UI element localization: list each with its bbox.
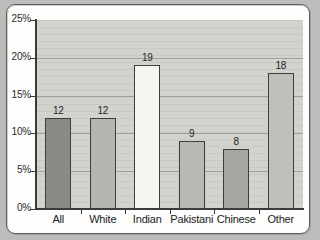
scan-texture-line: [36, 97, 303, 98]
y-axis-tick-label: 10%: [0, 127, 31, 137]
bar-value-label: 19: [127, 52, 167, 63]
chart-page: 25%20%15%10%5%0% 12All12White19Indian9Pa…: [0, 0, 320, 240]
y-axis-tick-label: 25%: [0, 14, 31, 24]
scan-texture-line: [36, 34, 303, 35]
bar-pakistani: [179, 141, 205, 209]
scan-texture-line: [36, 48, 303, 49]
bar-other: [268, 73, 294, 209]
scan-texture-line: [36, 125, 303, 126]
scan-texture-line: [36, 167, 303, 168]
y-axis-tick: [30, 96, 36, 97]
scan-texture-line: [36, 90, 303, 91]
y-axis-tick: [30, 133, 36, 134]
scan-texture-line: [36, 181, 303, 182]
y-axis-tick-label: 20%: [0, 52, 31, 62]
y-axis-tick: [30, 171, 36, 172]
bar-indian: [134, 65, 160, 209]
bar-chinese: [223, 149, 249, 209]
y-axis-tick: [30, 58, 36, 59]
scan-texture-line: [36, 41, 303, 42]
y-axis-tick-label: 15%: [0, 90, 31, 100]
scan-texture-line: [36, 188, 303, 189]
y-axis-labels: 25%20%15%10%5%0%: [0, 0, 31, 240]
x-axis-category-label: Other: [251, 213, 311, 226]
scan-texture-line: [36, 27, 303, 28]
scan-texture-line: [36, 76, 303, 77]
bar-value-label: 8: [216, 136, 256, 147]
scan-texture-line: [36, 139, 303, 140]
bar-all: [45, 118, 71, 209]
y-axis-tick-label: 5%: [0, 165, 31, 175]
bar-value-label: 12: [38, 105, 78, 116]
y-axis-tick-label: 0%: [0, 203, 31, 213]
y-axis-line: [35, 19, 37, 210]
scan-texture-line: [36, 55, 303, 56]
bar-white: [90, 118, 116, 209]
scan-texture-line: [36, 146, 303, 147]
scan-texture-line: [36, 118, 303, 119]
gridline: [36, 58, 303, 59]
bar-value-label: 18: [261, 60, 301, 71]
gridline: [36, 171, 303, 172]
scan-texture-line: [36, 20, 303, 21]
y-axis-tick: [30, 20, 36, 21]
scan-texture-line: [36, 174, 303, 175]
scan-texture-line: [36, 202, 303, 203]
y-axis-tick: [30, 209, 36, 210]
scan-texture-line: [36, 83, 303, 84]
gridline: [36, 96, 303, 97]
bar-value-label: 12: [83, 105, 123, 116]
gridline: [36, 133, 303, 134]
scan-texture-line: [36, 195, 303, 196]
scan-texture-line: [36, 160, 303, 161]
bar-value-label: 9: [172, 128, 212, 139]
scan-texture-line: [36, 153, 303, 154]
